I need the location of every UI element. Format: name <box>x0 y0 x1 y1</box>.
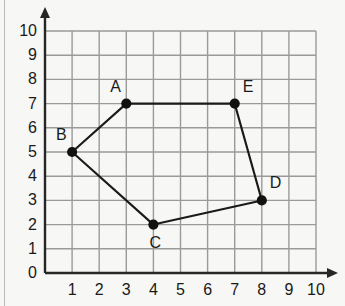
point-label-d: D <box>270 175 282 191</box>
y-tick-label-3: 3 <box>9 192 37 208</box>
y-tick-label-1: 1 <box>9 241 37 257</box>
x-tick-label-1: 1 <box>60 282 84 298</box>
y-tick-label-10: 10 <box>9 23 37 39</box>
point-label-b: B <box>56 127 67 143</box>
x-tick-label-4: 4 <box>141 282 165 298</box>
data-point-b <box>67 147 77 157</box>
y-tick-label-2: 2 <box>9 217 37 233</box>
gridlines <box>45 31 316 273</box>
x-tick-label-9: 9 <box>277 282 301 298</box>
point-label-e: E <box>243 79 254 95</box>
plot-area <box>0 0 345 306</box>
x-tick-label-5: 5 <box>169 282 193 298</box>
x-tick-label-8: 8 <box>250 282 274 298</box>
data-point-e <box>230 99 240 109</box>
data-point-a <box>121 99 131 109</box>
data-point-c <box>148 220 158 230</box>
data-points <box>67 99 267 230</box>
x-tick-label-2: 2 <box>87 282 111 298</box>
y-axis-arrow-icon <box>40 7 50 18</box>
y-tick-label-9: 9 <box>9 47 37 63</box>
x-tick-label-3: 3 <box>114 282 138 298</box>
polygon-edge-b-c <box>72 152 153 225</box>
y-tick-label-6: 6 <box>9 120 37 136</box>
x-tick-label-6: 6 <box>196 282 220 298</box>
y-tick-label-7: 7 <box>9 96 37 112</box>
coordinate-grid-figure: 012345678910 12345678910 ABCDE <box>0 0 345 306</box>
y-tick-label-0: 0 <box>9 265 37 281</box>
x-axis-arrow-icon <box>327 268 338 278</box>
data-point-d <box>257 195 267 205</box>
point-label-c: C <box>149 235 161 251</box>
x-tick-label-10: 10 <box>304 282 328 298</box>
y-tick-label-5: 5 <box>9 144 37 160</box>
x-tick-label-7: 7 <box>223 282 247 298</box>
axes <box>40 7 338 278</box>
y-tick-label-4: 4 <box>9 168 37 184</box>
polygon-edges <box>72 104 262 225</box>
y-tick-label-8: 8 <box>9 71 37 87</box>
point-label-a: A <box>110 79 121 95</box>
